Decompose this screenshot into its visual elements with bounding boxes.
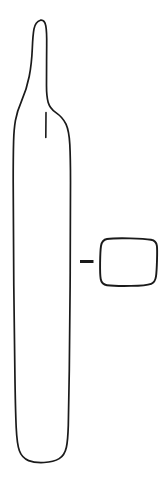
artifact-figure (0, 0, 168, 483)
artifact-drawing-canvas (0, 0, 168, 483)
cross-section-outline (100, 238, 157, 286)
artifact-profile-outline (13, 20, 70, 462)
